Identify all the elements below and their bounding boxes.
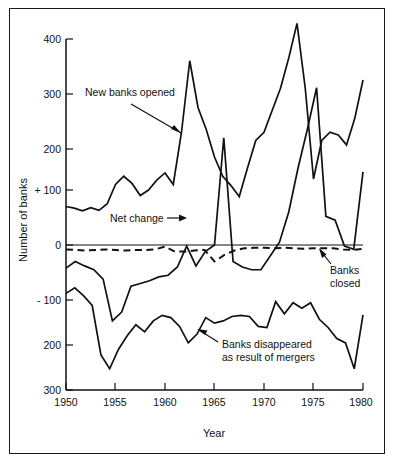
annotation-new-banks-label: New banks opened bbox=[85, 86, 175, 98]
x-tick-label-1970: 1970 bbox=[252, 396, 276, 408]
x-tick-label-1950: 1950 bbox=[54, 396, 78, 408]
y-tick-label-neg300: 300 bbox=[43, 384, 61, 396]
x-axis-title: Year bbox=[203, 427, 226, 439]
x-tick-label-1965: 1965 bbox=[202, 396, 226, 408]
y-tick-label-400: 400 bbox=[43, 33, 61, 45]
y-axis-title: Number of banks bbox=[17, 178, 29, 262]
figure-container: 400 300 200 + 100 0 - 100 200 300 Number… bbox=[0, 0, 394, 462]
series-banks-closed bbox=[66, 247, 363, 262]
x-tick-label-1975: 1975 bbox=[301, 396, 325, 408]
y-tick-label-300: 300 bbox=[43, 88, 61, 100]
y-tick-label-200: 200 bbox=[43, 143, 61, 155]
annotation-banks-closed-line2: closed bbox=[330, 277, 361, 289]
annotation-net-change-label: Net change bbox=[110, 212, 164, 224]
annotation-new-banks-opened: New banks opened bbox=[85, 86, 181, 133]
x-tick-label-1955: 1955 bbox=[103, 396, 127, 408]
annotation-net-change: Net change bbox=[110, 212, 187, 224]
x-tick-label-1980: 1980 bbox=[349, 396, 373, 408]
y-tick-label-100: + 100 bbox=[34, 184, 61, 196]
annotation-new-banks-arrowhead bbox=[171, 125, 181, 133]
annotation-mergers-line1: Banks disappeared bbox=[222, 338, 312, 350]
annotation-banks-closed: Banks closed bbox=[319, 248, 361, 289]
y-axis: 400 300 200 + 100 0 - 100 200 300 Number… bbox=[17, 33, 73, 396]
bank-line-chart: 400 300 200 + 100 0 - 100 200 300 Number… bbox=[0, 0, 394, 462]
annotation-mergers: Banks disappeared as result of mergers bbox=[197, 329, 315, 363]
annotation-banks-closed-line1: Banks bbox=[330, 264, 359, 276]
annotation-net-change-arrowhead bbox=[179, 215, 187, 222]
series-net-change bbox=[66, 88, 363, 321]
series-banks-disappeared-mergers bbox=[66, 288, 363, 369]
x-axis: 1950 1955 1960 1965 1970 1975 1980 Year bbox=[54, 383, 373, 439]
x-tick-label-1960: 1960 bbox=[153, 396, 177, 408]
annotation-mergers-line2: as result of mergers bbox=[222, 351, 315, 363]
y-tick-label-neg100: - 100 bbox=[37, 294, 61, 306]
y-tick-label-0: 0 bbox=[55, 239, 61, 251]
y-tick-label-neg200: 200 bbox=[43, 339, 61, 351]
